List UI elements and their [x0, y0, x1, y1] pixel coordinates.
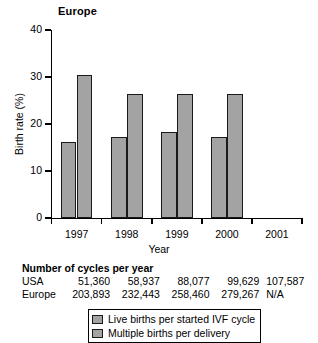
- chart-title: Europe: [58, 5, 97, 17]
- y-axis-line: [51, 30, 52, 219]
- bar: [61, 142, 77, 218]
- bar: [177, 94, 193, 218]
- bar: [77, 75, 93, 218]
- table-cell: 232,443: [114, 288, 164, 301]
- y-tick-label: 20: [10, 118, 42, 129]
- table-cell: 99,629: [214, 275, 264, 288]
- y-tick-mark: [45, 29, 51, 30]
- x-axis-line: [51, 218, 302, 219]
- table-cell: 258,460: [164, 288, 214, 301]
- table-cell: 51,360: [64, 275, 114, 288]
- x-tick-mark: [251, 218, 252, 224]
- y-tick-label: 40: [10, 24, 42, 35]
- y-tick-mark: [45, 123, 51, 124]
- x-tick-mark: [301, 218, 302, 224]
- legend-swatch-icon: [92, 329, 103, 338]
- table-row-label: USA: [22, 275, 64, 288]
- x-tick-mark: [201, 218, 202, 224]
- bar: [161, 132, 177, 218]
- cycles-per-year-table: Number of cycles per year USA51,36058,93…: [22, 262, 312, 301]
- bar: [211, 137, 227, 218]
- table-row: USA51,36058,93788,07799,629107,587: [22, 275, 312, 288]
- legend-swatch-icon: [92, 315, 103, 324]
- table-row: Europe203,893232,443258,460279,267N/A: [22, 288, 312, 301]
- table-cell: 107,587: [263, 275, 312, 288]
- table-cell: 58,937: [114, 275, 164, 288]
- bar: [111, 137, 127, 218]
- y-tick-mark: [45, 170, 51, 171]
- legend-label: Multiple births per delivery: [108, 327, 230, 339]
- table-row-label: Europe: [22, 288, 64, 301]
- y-tick-label: 10: [10, 165, 42, 176]
- bar: [227, 94, 243, 218]
- x-tick-mark: [101, 218, 102, 224]
- chart-legend: Live births per started IVF cycleMultipl…: [88, 309, 261, 343]
- legend-item: Live births per started IVF cycle: [92, 312, 255, 326]
- x-tick-mark: [151, 218, 152, 224]
- x-tick-label: 2001: [247, 228, 307, 240]
- table-cell: 203,893: [64, 288, 114, 301]
- table-caption: Number of cycles per year: [22, 262, 312, 274]
- table-cell: 279,267: [214, 288, 264, 301]
- x-tick-mark: [51, 218, 52, 224]
- chart-container: Europe Birth rate (%) Year 010203040 199…: [0, 0, 318, 258]
- y-tick-label: 0: [10, 212, 42, 223]
- x-axis-label: Year: [0, 243, 318, 255]
- y-tick-label: 30: [10, 71, 42, 82]
- y-tick-mark: [45, 76, 51, 77]
- table-cell: N/A: [263, 288, 312, 301]
- bar: [127, 94, 143, 218]
- legend-label: Live births per started IVF cycle: [108, 313, 255, 325]
- legend-item: Multiple births per delivery: [92, 326, 255, 340]
- table-body: USA51,36058,93788,07799,629107,587Europe…: [22, 275, 312, 301]
- table-cell: 88,077: [164, 275, 214, 288]
